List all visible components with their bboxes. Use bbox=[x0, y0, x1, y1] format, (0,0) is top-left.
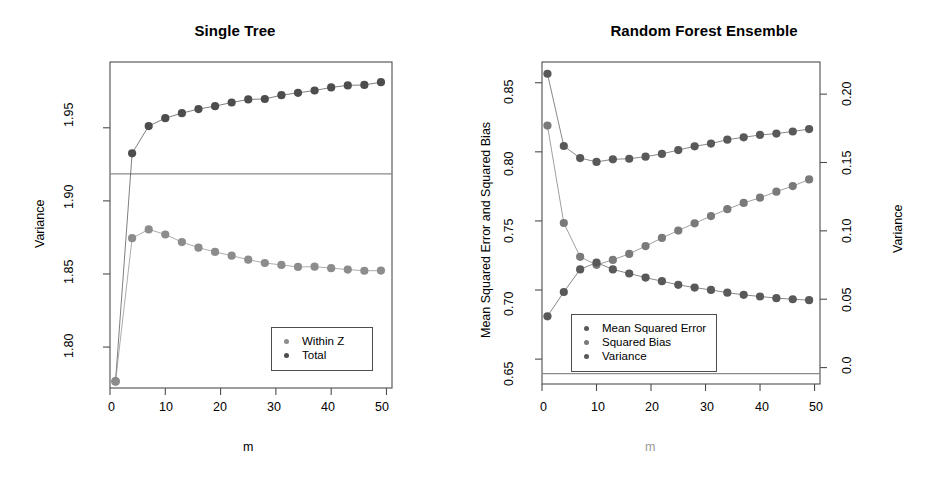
legend-marker-dot-icon bbox=[584, 340, 589, 345]
left-legend: Within ZTotal bbox=[271, 327, 373, 371]
right-legend-item: Mean Squared Error bbox=[579, 321, 707, 335]
left-legend-item: Total bbox=[279, 348, 363, 362]
legend-marker-dot-icon bbox=[584, 354, 589, 359]
legend-item-label: Mean Squared Error bbox=[602, 321, 706, 335]
legend-marker-dot-icon bbox=[284, 353, 289, 358]
legend-marker-dot-icon bbox=[584, 326, 589, 331]
legend-item-label: Squared Bias bbox=[602, 335, 671, 349]
legend-item-label: Total bbox=[302, 348, 326, 362]
legend-marker-dot-icon bbox=[284, 339, 289, 344]
legend-item-label: Variance bbox=[602, 349, 647, 363]
panel-single-tree: Single Tree 1.95 1.90 1.85 1.80 Variance… bbox=[0, 0, 470, 483]
figure-canvas: Single Tree 1.95 1.90 1.85 1.80 Variance… bbox=[0, 0, 938, 483]
right-plot-svg bbox=[470, 0, 938, 483]
right-legend-item: Squared Bias bbox=[579, 335, 707, 349]
panel-random-forest: Random Forest Ensemble 0.85 0.80 0.75 0.… bbox=[470, 0, 938, 483]
left-legend-item: Within Z bbox=[279, 334, 363, 348]
legend-item-label: Within Z bbox=[302, 334, 344, 348]
left-plot-svg bbox=[0, 0, 470, 483]
right-legend-item: Variance bbox=[579, 349, 707, 363]
right-legend: Mean Squared ErrorSquared BiasVariance bbox=[571, 314, 717, 372]
